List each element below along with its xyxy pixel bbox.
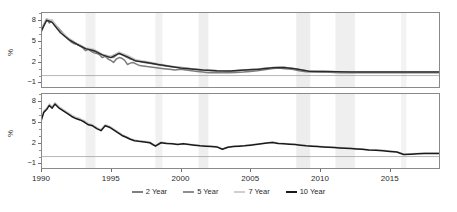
x-axis-tick-label: 2015 xyxy=(381,174,399,183)
legend-label: 5 Year xyxy=(197,188,218,196)
y-axis-minor-tick xyxy=(39,122,41,123)
x-axis-tick-label: 1995 xyxy=(102,174,120,183)
y-axis-minor-tick xyxy=(39,129,41,130)
legend-item[interactable]: 5 Year xyxy=(183,188,218,196)
legend-label: 10 Year xyxy=(300,188,325,196)
y-axis-minor-tick xyxy=(39,136,41,137)
x-axis-tick-mark xyxy=(320,169,321,172)
plot-frame-top xyxy=(41,12,440,88)
chart-panel-top xyxy=(41,12,440,88)
y-axis-minor-tick xyxy=(39,115,41,116)
chart-legend: 2 Year5 Year7 Year10 Year xyxy=(0,186,457,198)
x-axis-tick-mark xyxy=(111,169,112,172)
y-axis-tick-label: 2 xyxy=(32,58,36,66)
x-axis-tick-mark xyxy=(181,169,182,172)
y-axis-minor-tick xyxy=(39,41,41,42)
x-axis-tick-mark xyxy=(390,169,391,172)
x-axis-tick-label: 2010 xyxy=(311,174,329,183)
x-axis-tick-label: 1990 xyxy=(32,174,50,183)
y-axis-minor-tick xyxy=(39,48,41,49)
y-axis-label-top: % xyxy=(6,49,15,56)
plot-frame-bottom xyxy=(41,93,440,169)
y-axis-minor-tick xyxy=(39,82,41,83)
y-axis-minor-tick xyxy=(39,157,41,158)
y-axis-minor-tick xyxy=(39,101,41,102)
y-axis-minor-tick xyxy=(39,55,41,56)
y-axis-label-bottom: % xyxy=(6,130,15,137)
y-axis-minor-tick xyxy=(39,20,41,21)
y-axis-minor-tick xyxy=(39,163,41,164)
legend-item[interactable]: 2 Year xyxy=(132,188,167,196)
y-axis-minor-tick xyxy=(39,13,41,14)
legend-swatch-icon xyxy=(286,191,297,194)
y-axis-minor-tick xyxy=(39,62,41,63)
y-axis-minor-tick xyxy=(39,143,41,144)
chart-panel-bottom xyxy=(41,93,440,169)
y-axis-tick-label: 8 xyxy=(32,17,36,25)
x-axis-tick-label: 2005 xyxy=(241,174,259,183)
y-axis-tick-label: 2 xyxy=(32,139,36,147)
x-axis-tick-label: 2000 xyxy=(172,174,190,183)
y-axis-minor-tick xyxy=(39,94,41,95)
y-axis-minor-tick xyxy=(39,76,41,77)
y-axis-minor-tick xyxy=(39,108,41,109)
y-axis-tick-label: −1 xyxy=(27,79,36,87)
legend-label: 7 Year xyxy=(248,188,269,196)
x-axis-tick-mark xyxy=(250,169,251,172)
y-axis-tick-label: −1 xyxy=(27,160,36,168)
x-axis-tick-mark xyxy=(41,169,42,172)
y-axis-minor-tick xyxy=(39,150,41,151)
legend-item[interactable]: 7 Year xyxy=(234,188,269,196)
y-axis-minor-tick xyxy=(39,34,41,35)
y-axis-minor-tick xyxy=(39,27,41,28)
y-axis-tick-label: 5 xyxy=(32,37,36,45)
y-axis-tick-label: 5 xyxy=(32,118,36,126)
y-axis-tick-label: 8 xyxy=(32,98,36,106)
legend-item[interactable]: 10 Year xyxy=(286,188,325,196)
legend-label: 2 Year xyxy=(146,188,167,196)
legend-swatch-icon xyxy=(132,191,143,194)
legend-swatch-icon xyxy=(183,191,194,194)
chart-root: −1258 % −1258 % 199019952000200520102015… xyxy=(0,0,457,212)
legend-swatch-icon xyxy=(234,191,245,194)
y-axis-minor-tick xyxy=(39,69,41,70)
